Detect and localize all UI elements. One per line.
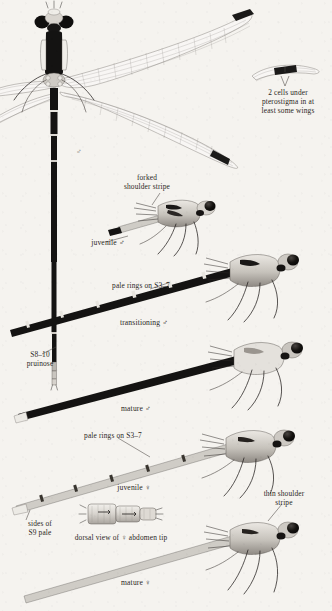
label-sides-of-s9-pale: sides of S9 pale [16,519,64,537]
label-forked-shoulder-stripe: forked shoulder stripe [108,173,186,191]
label-pale-rings-male: pale rings on S3–7 [96,281,186,290]
eye [205,201,216,211]
figure-dorsal-male-full [0,1,254,390]
label-top-specimen-sex: ♂ [72,147,86,156]
figure-female-abdomen-tip [79,504,163,524]
eye [287,255,299,266]
eye [283,431,295,442]
segment-s9-pale [12,504,28,515]
field-guide-plate: 2 cells under pterostigma in at least so… [0,0,332,611]
abdomen-mid [51,162,57,262]
leader-pale-rings-female [118,438,150,457]
label-pterostigma-note: 2 cells under pterostigma in at least so… [248,88,328,116]
label-dorsal-abdomen-tip: dorsal view of ♀ abdomen tip [66,533,176,542]
shoulder-stripe-left [41,40,47,70]
figure-juvenile-male [108,200,216,256]
eye [291,343,303,354]
shoulder-stripe-right [62,40,68,70]
figure-pterostigma-detail [252,65,319,86]
label-juvenile-male: juvenile ♂ [78,238,138,247]
wing-upper-right [58,9,254,88]
wing-lower-left [0,94,54,125]
label-thin-shoulder-stripe: thin shoulder stripe [246,489,322,507]
leader-forked-shoulder-stripe [152,193,160,205]
label-mature-female: mature ♀ [106,578,166,587]
label-juvenile-female: juvenile ♀ [104,483,164,492]
label-s8-10-pruinose: S8–10 pruinose [14,350,66,368]
eye [287,523,299,534]
segment-s10 [52,379,57,385]
wing-lower-right [60,92,238,168]
segment-s9 [52,371,57,379]
thorax-dorsal [45,31,63,77]
label-mature-male: mature ♂ [106,404,166,413]
abdomen-s1-s2 [50,88,58,110]
pterostigma-pointer [281,76,289,86]
label-pale-rings-female: pale rings on S3–7 [68,431,158,440]
label-transitioning-male: transitioning ♂ [104,318,184,327]
